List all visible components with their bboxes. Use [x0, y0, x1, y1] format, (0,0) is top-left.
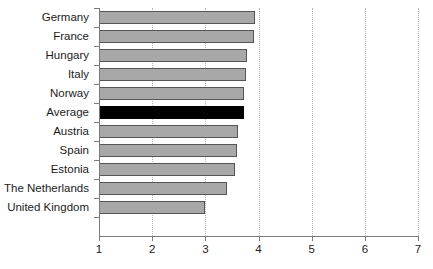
category-label-france: France	[0, 27, 89, 46]
bar-row	[99, 179, 418, 198]
x-tick-label-2: 2	[137, 243, 167, 255]
category-label-norway: Norway	[0, 84, 89, 103]
y-tick	[94, 65, 99, 66]
bar-row	[99, 65, 418, 84]
x-tick-label-7: 7	[403, 243, 433, 255]
y-tick	[94, 198, 99, 199]
y-tick	[94, 46, 99, 47]
x-tick-label-1: 1	[84, 243, 114, 255]
y-tick	[94, 27, 99, 28]
bar-row	[99, 160, 418, 179]
x-tick-6	[365, 236, 366, 241]
x-tick-label-3: 3	[190, 243, 220, 255]
bar-row	[99, 103, 418, 122]
x-tick-5	[312, 236, 313, 241]
category-label-estonia: Estonia	[0, 160, 89, 179]
y-tick	[94, 217, 99, 218]
gridline-x-7	[418, 8, 419, 236]
bar-france	[99, 30, 254, 43]
bar-average	[99, 106, 244, 119]
y-tick	[94, 122, 99, 123]
bar-row	[99, 122, 418, 141]
x-tick-label-4: 4	[244, 243, 274, 255]
category-label-average: Average	[0, 103, 89, 122]
x-tick-4	[259, 236, 260, 241]
category-label-the-netherlands: The Netherlands	[0, 179, 89, 198]
bar-italy	[99, 68, 246, 81]
category-label-united-kingdom: United Kingdom	[0, 198, 89, 217]
bar-norway	[99, 87, 244, 100]
x-tick-label-6: 6	[350, 243, 380, 255]
y-tick	[94, 84, 99, 85]
bar-austria	[99, 125, 238, 138]
bar-spain	[99, 144, 237, 157]
bar-row	[99, 46, 418, 65]
bar-row	[99, 141, 418, 160]
bar-row	[99, 198, 418, 217]
x-tick-1	[99, 236, 100, 241]
category-label-italy: Italy	[0, 65, 89, 84]
bar-row	[99, 84, 418, 103]
x-tick-3	[205, 236, 206, 241]
y-tick	[94, 8, 99, 9]
plot-area	[99, 8, 418, 236]
category-label-hungary: Hungary	[0, 46, 89, 65]
category-label-germany: Germany	[0, 8, 89, 27]
y-axis-line	[99, 8, 100, 237]
bar-united-kingdom	[99, 201, 205, 214]
y-tick	[94, 103, 99, 104]
bar-row	[99, 8, 418, 27]
x-tick-label-5: 5	[297, 243, 327, 255]
y-tick	[94, 141, 99, 142]
bar-hungary	[99, 49, 247, 62]
bar-the-netherlands	[99, 182, 227, 195]
x-tick-2	[152, 236, 153, 241]
bar-chart: GermanyFranceHungaryItalyNorwayAverageAu…	[0, 0, 433, 269]
bar-germany	[99, 11, 255, 24]
y-tick	[94, 179, 99, 180]
bar-row	[99, 27, 418, 46]
bar-estonia	[99, 163, 235, 176]
category-label-austria: Austria	[0, 122, 89, 141]
category-label-spain: Spain	[0, 141, 89, 160]
y-tick	[94, 160, 99, 161]
x-tick-7	[418, 236, 419, 241]
